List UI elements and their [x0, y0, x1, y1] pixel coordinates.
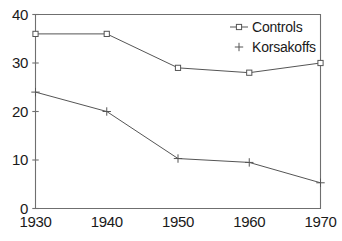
- data-point: [104, 31, 109, 36]
- line-chart: 403020100 19301940195019601970 ControlsK…: [0, 0, 342, 241]
- legend-item-controls: Controls: [252, 20, 303, 34]
- x-tick-label: 1940: [77, 214, 137, 229]
- plot-area: [0, 0, 342, 241]
- legend-item-korsakoffs: Korsakoffs: [252, 40, 316, 54]
- x-tick-label: 1930: [6, 214, 66, 229]
- x-tick-label: 1950: [148, 214, 208, 229]
- data-point: [175, 65, 180, 70]
- data-point: [318, 60, 323, 65]
- data-point: [247, 70, 252, 75]
- x-tick-label: 1960: [219, 214, 279, 229]
- y-tick-label: 30: [0, 55, 28, 70]
- y-tick-label: 40: [0, 7, 28, 22]
- x-tick-label: 1970: [291, 214, 342, 229]
- y-tick-label: 10: [0, 152, 28, 167]
- legend-markers: [230, 24, 248, 51]
- y-tick-label: 20: [0, 104, 28, 119]
- data-point: [33, 31, 38, 36]
- series-korsakoffs: [31, 88, 324, 187]
